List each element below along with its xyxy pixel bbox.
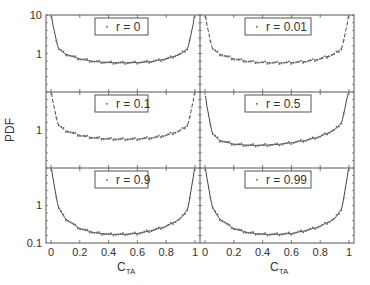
data-point	[182, 51, 184, 53]
data-point	[110, 232, 112, 234]
data-point	[321, 134, 323, 136]
data-point	[305, 230, 307, 232]
data-point	[252, 143, 254, 145]
data-point	[221, 55, 223, 57]
data-point	[336, 214, 338, 216]
data-point	[56, 40, 58, 42]
data-point	[326, 57, 328, 59]
xtick-label: 0.6	[284, 246, 299, 258]
data-point	[212, 48, 214, 50]
data-point	[302, 231, 304, 233]
data-point	[343, 197, 345, 199]
xtick-label: 0	[48, 246, 54, 258]
x-axis-label-right: CTA	[270, 260, 289, 276]
data-point	[219, 141, 221, 143]
data-point	[233, 144, 235, 146]
data-point	[321, 224, 323, 226]
data-point	[290, 234, 292, 236]
data-point	[170, 55, 172, 57]
data-point	[293, 142, 295, 144]
data-point	[226, 223, 228, 225]
data-point	[245, 145, 247, 147]
data-point	[151, 138, 153, 140]
data-point	[153, 229, 155, 231]
data-point	[310, 59, 312, 61]
data-point	[300, 230, 302, 232]
data-point	[302, 141, 304, 143]
data-point	[158, 58, 160, 60]
data-point	[63, 214, 65, 216]
data-point	[120, 61, 122, 63]
chart-frame	[46, 15, 354, 243]
data-point	[70, 55, 72, 57]
data-point	[132, 61, 134, 63]
data-point	[117, 234, 119, 236]
data-point	[221, 221, 223, 223]
data-point	[179, 53, 181, 55]
data-point	[317, 137, 319, 139]
data-point	[269, 145, 271, 147]
data-point	[129, 233, 131, 235]
data-point	[307, 229, 309, 231]
data-point	[84, 229, 86, 231]
data-point	[146, 230, 148, 232]
legend-marker	[256, 26, 258, 28]
xtick-label: 1	[346, 246, 352, 258]
data-point	[226, 55, 228, 57]
data-point	[144, 137, 146, 139]
data-point	[217, 136, 219, 138]
data-point	[333, 218, 335, 220]
data-point	[340, 49, 342, 51]
data-point	[153, 60, 155, 62]
data-point	[295, 141, 297, 143]
data-point	[274, 143, 276, 145]
data-point	[170, 132, 172, 134]
data-point	[94, 137, 96, 139]
data-point	[212, 207, 214, 209]
data-point	[274, 233, 276, 235]
data-point	[269, 234, 271, 236]
data-point	[252, 231, 254, 233]
data-point	[101, 62, 103, 64]
legend-marker	[256, 179, 258, 181]
data-point	[217, 51, 219, 53]
data-point	[319, 226, 321, 228]
data-point	[79, 229, 81, 231]
data-point	[86, 135, 88, 137]
data-point	[281, 234, 283, 236]
data-point	[288, 61, 290, 63]
data-point	[127, 139, 129, 141]
data-point	[89, 61, 91, 63]
data-point	[221, 141, 223, 143]
data-point	[60, 49, 62, 51]
data-point	[134, 61, 136, 63]
data-point	[170, 222, 172, 224]
data-point	[144, 231, 146, 233]
data-point	[186, 49, 188, 51]
data-point	[276, 232, 278, 234]
data-point	[245, 232, 247, 234]
data-point	[177, 54, 179, 56]
data-point	[129, 138, 131, 140]
data-point	[331, 219, 333, 221]
axes-labels: 10 1 1 1 0.1 PDF 00.20.40.60.81 00.20.40…	[3, 9, 352, 276]
data-point	[319, 58, 321, 60]
data-point	[141, 232, 143, 234]
xtick-label: 0	[202, 246, 208, 258]
data-point	[79, 59, 81, 61]
data-point	[158, 135, 160, 137]
data-point	[283, 143, 285, 145]
data-point	[165, 135, 167, 137]
data-point	[236, 144, 238, 146]
data-point	[255, 234, 257, 236]
panel-0.1: r = 0.1	[52, 93, 195, 141]
data-point	[250, 60, 252, 62]
data-point	[65, 55, 67, 57]
data-point	[290, 63, 292, 65]
data-point	[86, 229, 88, 231]
data-point	[298, 231, 300, 233]
xtick-label: 0.4	[101, 246, 116, 258]
data-point	[108, 61, 110, 63]
data-point	[117, 62, 119, 64]
data-point	[240, 143, 242, 145]
